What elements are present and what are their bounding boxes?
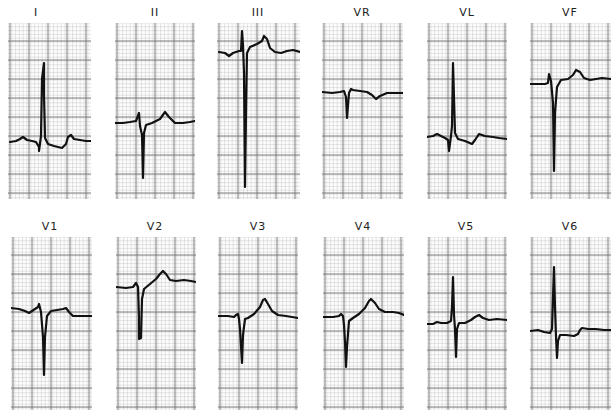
ecg-panel-v5 — [427, 237, 507, 410]
ecg-grid — [427, 23, 507, 199]
ecg-grid — [427, 237, 507, 410]
ecg-panel-v6 — [530, 237, 611, 410]
lead-label-v1: V1 — [20, 220, 80, 233]
ecg-trace-v6 — [530, 267, 611, 358]
lead-label-v5: V5 — [436, 220, 496, 233]
ecg-panel-vl — [427, 23, 507, 199]
lead-label-vr: VR — [332, 6, 392, 19]
lead-label-vl: VL — [437, 6, 497, 19]
ecg-grid — [8, 23, 91, 199]
lead-label-vf: VF — [540, 6, 600, 19]
ecg-grid — [530, 237, 611, 410]
ecg-panel-i — [8, 23, 91, 199]
lead-label-v6: V6 — [540, 220, 600, 233]
lead-label-iii: III — [228, 6, 288, 19]
lead-label-v2: V2 — [125, 220, 185, 233]
ecg-panel-v4 — [323, 237, 404, 410]
ecg-grid — [116, 237, 196, 410]
ecg-grid — [322, 23, 403, 199]
ecg-panel-v3 — [218, 237, 298, 410]
ecg-panel-ii — [115, 23, 195, 199]
ecg-grid — [115, 23, 195, 199]
lead-label-v3: V3 — [228, 220, 288, 233]
ecg-grid — [530, 23, 611, 199]
ecg-grid — [11, 237, 92, 410]
lead-label-ii: II — [125, 6, 185, 19]
ecg-panel-vr — [322, 23, 403, 199]
ecg-panel-iii — [217, 23, 300, 199]
ecg-panel-v1 — [11, 237, 92, 410]
ecg-grid — [217, 23, 300, 199]
ecg-panel-vf — [530, 23, 611, 199]
ecg-panel-v2 — [116, 237, 196, 410]
lead-label-i: I — [6, 6, 66, 19]
ecg-trace-vr — [322, 89, 403, 118]
lead-label-v4: V4 — [333, 220, 393, 233]
ecg-grid — [218, 237, 298, 410]
ecg-grid — [323, 237, 404, 410]
